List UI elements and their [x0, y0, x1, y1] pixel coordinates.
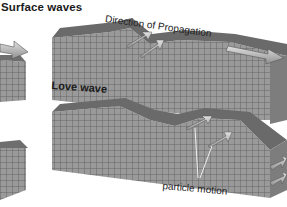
diagram-canvas — [0, 0, 287, 207]
left-block-lower — [0, 140, 28, 200]
left-block-upper — [0, 55, 26, 102]
diagram-title: Surface waves — [1, 1, 82, 13]
